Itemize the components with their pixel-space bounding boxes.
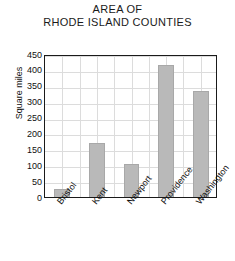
- y-tick-label: 300: [27, 98, 42, 107]
- bar-chart: AREA OF RHODE ISLAND COUNTIES Square mil…: [0, 0, 235, 261]
- y-tick-label: 450: [27, 51, 42, 60]
- y-tick-label: 0: [37, 194, 42, 203]
- y-tick-label: 350: [27, 82, 42, 91]
- y-tick-label: 50: [32, 178, 42, 187]
- chart-title-line-2: RHODE ISLAND COUNTIES: [0, 16, 235, 29]
- y-tick-label: 150: [27, 146, 42, 155]
- bar-washington: [193, 91, 209, 197]
- chart-title: AREA OF RHODE ISLAND COUNTIES: [0, 3, 235, 29]
- x-axis-ticks: BristolKentNewportProvidenceWashington: [44, 200, 217, 260]
- y-tick-label: 250: [27, 114, 42, 123]
- plot-area: [44, 55, 217, 198]
- y-tick-label: 100: [27, 162, 42, 171]
- y-tick-label: 200: [27, 130, 42, 139]
- chart-title-line-1: AREA OF: [0, 3, 235, 16]
- y-axis-ticks: 450400350300250200150100500: [12, 55, 42, 198]
- y-tick-label: 400: [27, 66, 42, 75]
- bar-providence: [158, 65, 174, 197]
